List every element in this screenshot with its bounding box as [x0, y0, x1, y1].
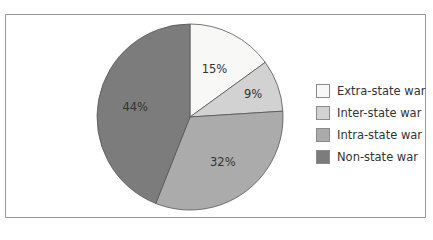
legend-swatch	[316, 84, 330, 98]
legend-item-non-state: Non-state war	[316, 146, 425, 168]
legend-label: Inter-state war	[337, 106, 421, 120]
legend-label: Intra-state war	[337, 128, 422, 142]
slice-label-inter-state: 9%	[244, 87, 262, 101]
legend-swatch	[316, 150, 330, 164]
slice-label-non-state: 44%	[122, 100, 148, 114]
slice-label-intra-state: 32%	[210, 155, 236, 169]
legend-item-intra-state: Intra-state war	[316, 124, 425, 146]
legend-swatch	[316, 128, 330, 142]
legend-swatch	[316, 106, 330, 120]
slice-label-extra-state: 15%	[202, 62, 228, 76]
legend-item-extra-state: Extra-state war	[316, 80, 425, 102]
legend-label: Non-state war	[337, 150, 418, 164]
legend: Extra-state war Inter-state war Intra-st…	[316, 80, 425, 168]
legend-label: Extra-state war	[337, 84, 425, 98]
legend-item-inter-state: Inter-state war	[316, 102, 425, 124]
